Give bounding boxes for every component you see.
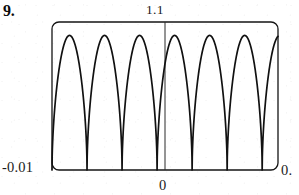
plot-canvas bbox=[0, 0, 299, 195]
x-min-tick-label: -0.01 bbox=[2, 160, 33, 175]
figure-container: 9. 1.1 -0.01 0. 0 bbox=[0, 0, 299, 195]
x-zero-tick-label: 0 bbox=[159, 178, 166, 193]
x-max-tick-label: 0. bbox=[281, 163, 292, 178]
y-max-tick-label: 1.1 bbox=[146, 2, 164, 17]
